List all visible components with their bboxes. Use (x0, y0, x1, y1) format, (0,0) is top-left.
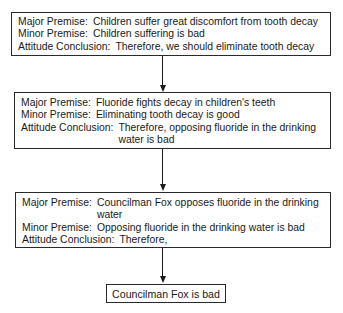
minor-premise-text: Opposing fluoride in the drinking water … (92, 222, 324, 234)
final-conclusion-box: Councilman Fox is bad (106, 284, 226, 303)
attitude-conclusion-row: Attitude Conclusion: Therefore, (22, 234, 324, 246)
minor-premise-label: Minor Premise: (22, 222, 92, 234)
minor-premise-row: Minor Premise: Opposing fluoride in the … (22, 222, 324, 234)
minor-premise-text: Eliminating tooth decay is good (91, 109, 324, 121)
attitude-conclusion-row: Attitude Conclusion: Therefore, we shoul… (18, 41, 324, 53)
minor-premise-row: Minor Premise: Children suffering is bad (18, 28, 324, 40)
attitude-conclusion-row: Attitude Conclusion: Therefore, opposing… (21, 122, 324, 147)
attitude-conclusion-text: Therefore, we should eliminate tooth dec… (110, 41, 324, 53)
attitude-conclusion-text: Therefore, opposing fluoride in the drin… (113, 122, 324, 147)
attitude-conclusion-label: Attitude Conclusion: (18, 41, 110, 53)
minor-premise-label: Minor Premise: (18, 28, 88, 40)
syllogism-box-3: Major Premise: Councilman Fox opposes fl… (15, 192, 331, 248)
major-premise-label: Major Premise: (21, 97, 91, 109)
minor-premise-row: Minor Premise: Eliminating tooth decay i… (21, 109, 324, 121)
arrow-down-icon (160, 85, 166, 92)
arrow-down-icon (160, 276, 166, 283)
minor-premise-text: Children suffering is bad (88, 28, 324, 40)
attitude-conclusion-label: Attitude Conclusion: (22, 234, 114, 246)
arrow-down-icon (160, 184, 166, 191)
syllogism-box-2: Major Premise: Fluoride fights decay in … (14, 92, 331, 149)
major-premise-row: Major Premise: Children suffer great dis… (18, 16, 324, 28)
final-conclusion-text: Councilman Fox is bad (112, 288, 220, 300)
major-premise-text: Councilman Fox opposes fluoride in the d… (92, 197, 324, 222)
major-premise-text: Children suffer great discomfort from to… (88, 16, 324, 28)
connector-line-1 (162, 56, 163, 86)
major-premise-label: Major Premise: (18, 16, 88, 28)
major-premise-row: Major Premise: Fluoride fights decay in … (21, 97, 324, 109)
major-premise-text: Fluoride fights decay in children's teet… (91, 97, 324, 109)
attitude-conclusion-label: Attitude Conclusion: (21, 122, 113, 147)
attitude-conclusion-text: Therefore, (114, 234, 324, 246)
major-premise-row: Major Premise: Councilman Fox opposes fl… (22, 197, 324, 222)
major-premise-label: Major Premise: (22, 197, 92, 222)
connector-line-3 (162, 248, 163, 277)
syllogism-box-1: Major Premise: Children suffer great dis… (11, 12, 331, 56)
minor-premise-label: Minor Premise: (21, 109, 91, 121)
connector-line-2 (162, 149, 163, 185)
